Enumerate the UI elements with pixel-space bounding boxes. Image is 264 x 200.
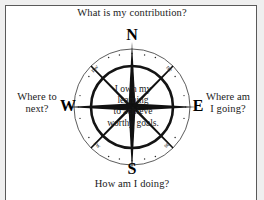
intercardinal-label-sw: sw <box>93 139 103 149</box>
diagram-page: nw ne se sw I own my learning to achieve… <box>0 0 264 200</box>
question-label-west: Where to next? <box>6 91 68 115</box>
cardinal-letter-south: S <box>122 161 142 177</box>
question-label-south: How am I doing? <box>56 178 208 190</box>
cardinal-letter-north: N <box>122 27 142 43</box>
question-label-east: Where am I going? <box>196 91 260 115</box>
intercardinal-label-nw: nw <box>89 63 100 74</box>
intercardinal-label-se: se <box>162 140 171 149</box>
compass-center-statement: I own my learning to achieve worthy goal… <box>100 84 166 129</box>
question-label-north: What is my contribution? <box>56 7 208 19</box>
compass-stage: nw ne se sw I own my learning to achieve… <box>0 0 264 200</box>
